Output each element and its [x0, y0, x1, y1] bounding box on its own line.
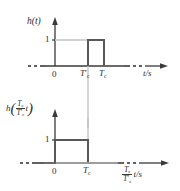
- top-y-axis-arrowhead: [52, 17, 58, 25]
- bottom-pulse-trace: [55, 140, 88, 163]
- signal-time-scaling-figure: h(t) 1 0 T′c Tc t/s h( Tc T′c t) 1 0 Tc …: [0, 0, 180, 191]
- bottom-y-frac-num-sub: c: [21, 103, 23, 108]
- bottom-xtick-label-tc: Tc: [83, 165, 91, 175]
- bottom-tc-sub: c: [88, 170, 90, 176]
- top-pulse-trace: [88, 40, 104, 66]
- bottom-x-tail: t/s: [133, 169, 142, 179]
- tc-sub: c: [104, 73, 106, 79]
- top-ytick-label-1: 1: [45, 34, 50, 44]
- bottom-x-axis-label: Tc T′c t/s: [122, 166, 142, 183]
- bottom-x-fraction: Tc T′c: [122, 166, 132, 183]
- top-x-axis-arrowhead: [160, 63, 168, 69]
- top-xtick-label-tc: Tc: [99, 68, 107, 78]
- bottom-x-frac-num-sub: c: [128, 169, 130, 174]
- bottom-y-axis-label: h( Tc T′c t): [6, 100, 33, 117]
- figure-canvas: [0, 0, 180, 191]
- bottom-plot: [20, 109, 169, 166]
- bottom-xtick-label-0: 0: [52, 166, 57, 176]
- top-xtick-label-tc-prime: T′c: [80, 68, 89, 78]
- bottom-x-frac-den-sub: c: [129, 179, 131, 184]
- bottom-ytick-label-1: 1: [45, 134, 50, 144]
- bottom-x-frac-den: T′c: [122, 175, 132, 183]
- bottom-x-axis-arrowhead: [161, 160, 169, 166]
- bottom-y-frac-den: T′c: [16, 109, 26, 117]
- top-x-axis-label: t/s: [143, 68, 152, 78]
- tc-prime-sub: c: [87, 73, 89, 79]
- top-xtick-label-0: 0: [52, 69, 57, 79]
- top-y-axis-label-text: h(t): [27, 16, 41, 26]
- bottom-y-axis-arrowhead: [52, 109, 58, 117]
- bottom-y-paren-close: ): [28, 100, 33, 116]
- top-y-axis-label: h(t): [27, 16, 41, 26]
- bottom-y-fraction: Tc T′c: [16, 100, 26, 116]
